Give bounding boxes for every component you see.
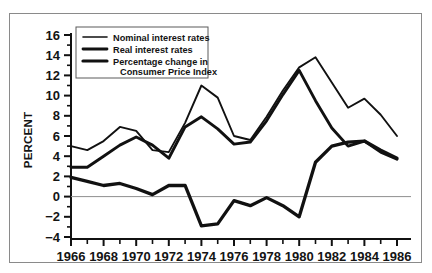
legend-label-real: Real interest rates: [113, 45, 193, 55]
series-line-2: [71, 141, 397, 226]
legend-label-cpi-line2: Consumer Price Index: [120, 67, 218, 77]
y-axis-title: PERCENT: [22, 112, 34, 168]
series-line-1: [71, 70, 397, 167]
y-tick-label: −4: [45, 230, 61, 245]
x-tick-label: 1986: [383, 249, 412, 264]
x-tick-label: 1976: [220, 249, 249, 264]
data-series-group: [71, 57, 397, 226]
y-tick-label: 0: [53, 189, 60, 204]
line-chart: 1614121086420−2−4 1966196819701972197419…: [0, 0, 432, 273]
y-tick-label: 2: [53, 169, 60, 184]
y-tick-label: 12: [46, 68, 60, 83]
x-tick-label: 1982: [317, 249, 346, 264]
legend-label-nominal: Nominal interest rates: [113, 33, 210, 43]
x-tick-label: 1974: [187, 249, 217, 264]
x-tick-label: 1978: [252, 249, 281, 264]
y-tick-label: −2: [45, 209, 60, 224]
x-axis-tick-labels: 1966196819701972197419761978198019821984…: [57, 249, 412, 264]
x-tick-label: 1984: [350, 249, 380, 264]
legend-label-cpi-line1: Percentage change in: [113, 57, 208, 67]
y-tick-label: 10: [46, 88, 60, 103]
y-axis-ticks: [64, 35, 71, 237]
y-tick-label: 14: [46, 48, 61, 63]
y-tick-label: 16: [46, 28, 60, 43]
x-tick-label: 1972: [154, 249, 183, 264]
y-tick-label: 4: [53, 149, 61, 164]
y-axis-tick-labels: 1614121086420−2−4: [45, 28, 61, 245]
x-tick-label: 1968: [89, 249, 118, 264]
x-tick-label: 1970: [122, 249, 151, 264]
chart-figure: 1614121086420−2−4 1966196819701972197419…: [0, 0, 432, 273]
x-tick-label: 1980: [285, 249, 314, 264]
x-axis-ticks: [71, 239, 397, 246]
y-tick-label: 8: [53, 108, 60, 123]
y-tick-label: 6: [53, 129, 60, 144]
x-tick-label: 1966: [57, 249, 86, 264]
legend: Nominal interest rates Real interest rat…: [76, 27, 218, 78]
